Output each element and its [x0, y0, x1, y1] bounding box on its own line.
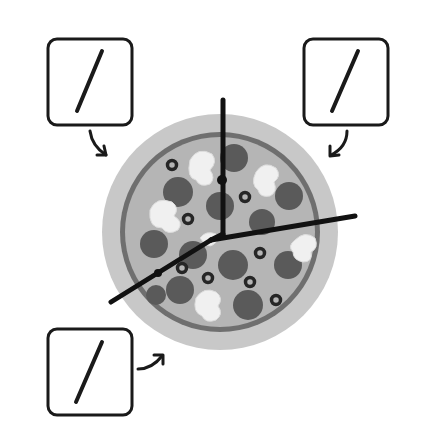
box-top-right — [304, 39, 388, 125]
cut-node — [154, 269, 162, 277]
box-top-left — [48, 39, 132, 125]
pizza — [102, 114, 338, 350]
arrow-top-right — [330, 131, 347, 156]
arrow-bottom-left — [138, 355, 163, 369]
pepperoni — [233, 290, 263, 320]
pepperoni — [140, 230, 168, 258]
arrow-top-left — [90, 131, 106, 155]
pepperoni — [218, 250, 248, 280]
pepperoni — [275, 182, 303, 210]
pepperoni — [166, 276, 194, 304]
box-bottom-left — [48, 329, 132, 415]
pepperoni — [146, 285, 166, 305]
pepperoni — [206, 192, 234, 220]
pizza-diagram — [0, 0, 422, 440]
cut-node — [217, 175, 227, 185]
